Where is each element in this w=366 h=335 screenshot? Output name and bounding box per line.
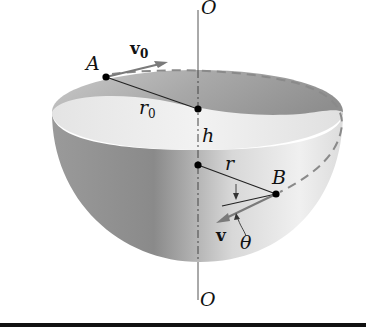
rim-center-dot	[194, 105, 201, 112]
level-b-center-dot	[194, 161, 201, 168]
v0-arrowhead-icon	[154, 61, 168, 68]
point-b-label: B	[271, 166, 286, 188]
bottom-rule	[0, 323, 366, 327]
h-label: h	[202, 124, 214, 146]
axis-bottom-label: O	[200, 288, 216, 310]
bowl-diagram: O O A B v0 r0 h r v θ	[0, 0, 366, 335]
point-b-dot	[272, 190, 279, 197]
point-a-label: A	[84, 52, 100, 74]
v-label: v	[215, 225, 227, 245]
theta-label: θ	[240, 231, 252, 253]
axis-top-label: O	[201, 0, 217, 18]
point-a-dot	[102, 73, 109, 80]
v0-label: v0	[129, 38, 148, 61]
